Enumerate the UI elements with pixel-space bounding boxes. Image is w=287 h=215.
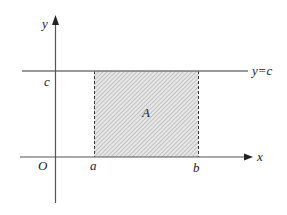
a-label: a <box>90 158 97 173</box>
origin-label: O <box>38 158 48 173</box>
y-axis-arrow-icon <box>52 15 59 25</box>
c-tick-label: c <box>44 74 50 89</box>
y-axis-label: y <box>40 16 48 31</box>
diagram-canvas: y x O c y=c a b A <box>0 0 287 215</box>
x-axis-arrow-icon <box>244 154 253 161</box>
region-label: A <box>141 105 150 120</box>
x-axis-label: x <box>256 149 263 164</box>
b-label: b <box>193 160 200 175</box>
line-label: y=c <box>250 63 273 78</box>
